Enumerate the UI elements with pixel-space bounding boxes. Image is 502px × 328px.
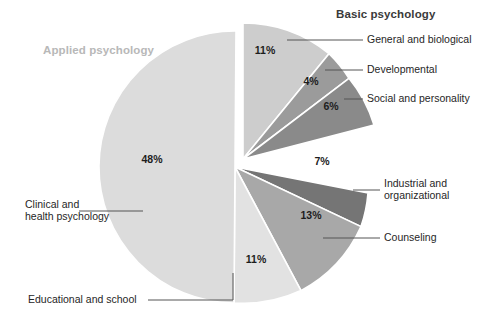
label-counseling[interactable]: Counseling	[384, 231, 437, 243]
pct-label-industrial: 7%	[314, 155, 330, 167]
label-general-and-biological[interactable]: General and biological	[367, 33, 472, 45]
label-industrial-line-1: Industrial and	[384, 177, 449, 189]
group-title-applied-psychology: Applied psychology	[43, 44, 154, 56]
label-clinical-line-2: health psychology	[25, 210, 109, 222]
group-title-basic-psychology: Basic psychology	[336, 8, 435, 20]
pct-label-social-and-personality: 6%	[323, 100, 339, 112]
label-clinical-line-1: Clinical and	[25, 198, 109, 210]
pie-chart: 11% 4% 6% 7% 13% 11% 48% Applied psychol…	[0, 0, 502, 328]
pct-label-developmental: 4%	[303, 75, 319, 87]
label-clinical-and-health-psychology[interactable]: Clinical and health psychology	[25, 198, 109, 222]
pct-label-clinical: 48%	[141, 153, 163, 165]
label-social-and-personality[interactable]: Social and personality	[367, 92, 470, 104]
pct-label-educational: 11%	[246, 253, 267, 265]
pct-label-general-and-biological: 11%	[255, 44, 276, 56]
label-educational-and-school[interactable]: Educational and school	[28, 293, 137, 305]
label-developmental[interactable]: Developmental	[367, 63, 437, 75]
pie-slice-clinical-and-health-psychology[interactable]	[99, 31, 236, 303]
label-industrial-and-organizational[interactable]: Industrial and organizational	[384, 177, 449, 201]
label-industrial-line-2: organizational	[384, 189, 449, 201]
pct-label-counseling: 13%	[300, 209, 322, 221]
